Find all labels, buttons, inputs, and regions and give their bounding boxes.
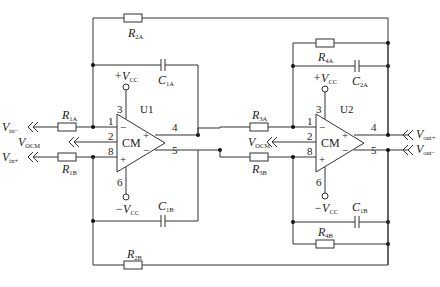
junction-dot	[91, 63, 95, 67]
u1-pin-6: 6	[117, 176, 123, 188]
u2-label: U2	[340, 103, 353, 115]
u2-out-minus-sign: −	[342, 144, 348, 156]
capacitor-c1b-stage2: C1B	[293, 200, 388, 228]
u2-core-label: CM	[321, 136, 340, 150]
r4a-sub: 4A	[325, 57, 333, 64]
u2-in-minus-sign: −	[319, 121, 325, 133]
svg-text:R2B: R2B	[126, 247, 143, 261]
resistor-r4a	[316, 39, 334, 47]
svg-text:R4A: R4A	[317, 50, 334, 64]
svg-text:R3A: R3A	[251, 108, 268, 122]
output-vout-minus: Vout−	[403, 142, 436, 156]
vin-minus-sub: in−	[9, 127, 18, 134]
vout-minus-sub: out−	[423, 149, 435, 156]
vcc-terminal-icon	[123, 84, 129, 90]
resistor-r2a: R2A	[124, 14, 144, 40]
u2-pin-5: 5	[371, 144, 377, 156]
junction-dot	[91, 219, 95, 223]
svg-text:Vin−: Vin−	[2, 120, 18, 134]
svg-text:C1A: C1A	[158, 73, 174, 87]
r3a-sub: 3A	[259, 115, 267, 122]
svg-text:R1B: R1B	[61, 162, 78, 176]
u1-pin-4: 4	[172, 121, 178, 133]
u2-pin-1: 1	[307, 115, 313, 127]
stage-2: R4A C2A C1B R4B	[291, 39, 436, 265]
svg-text:C1B: C1B	[352, 200, 368, 214]
svg-text:Vout+: Vout+	[416, 127, 436, 141]
resistor-r3b	[250, 153, 268, 161]
svg-text:R3B: R3B	[251, 162, 268, 176]
svg-text:+VCC: +VCC	[313, 71, 337, 85]
svg-text:C2A: C2A	[352, 74, 368, 88]
u2-pin-4: 4	[371, 121, 377, 133]
u1-in-minus-sign: −	[120, 121, 126, 133]
r3b-sub: 3B	[259, 169, 267, 176]
junction-dot	[386, 148, 390, 152]
amplifier-u1: +VCC 3 U1 −VCC 6 1 2 8 − + CM + − 4 5	[108, 69, 220, 216]
port-arrow-icon	[69, 137, 74, 147]
u1-out-plus-sign: +	[143, 129, 149, 141]
vcc-terminal-icon	[322, 86, 328, 92]
c2a-sub: 2A	[360, 81, 368, 88]
r2b-sub: 2B	[134, 254, 142, 261]
u2-pin-8: 8	[307, 145, 313, 157]
c1b-sub: 1B	[166, 206, 174, 213]
vee-terminal-icon	[123, 194, 129, 200]
u2-out-plus-sign: +	[342, 129, 348, 141]
output-vout-plus: Vout+	[403, 127, 436, 141]
vin-plus-sub: in+	[9, 157, 18, 164]
resistor-r2b: R2B	[124, 247, 143, 269]
u2-vminus-sub: CC	[329, 208, 338, 215]
u1-label: U1	[140, 103, 153, 115]
capacitor-c2a: C2A	[293, 60, 388, 88]
u1-core-label: CM	[122, 136, 141, 150]
u1-pin-3: 3	[117, 103, 123, 115]
junction-dot	[291, 155, 295, 159]
u1-pin-1: 1	[108, 115, 114, 127]
r1b-sub: 1B	[69, 169, 77, 176]
r4b-sub: 4B	[325, 232, 333, 239]
u1-vminus-sub: CC	[130, 209, 139, 216]
vee-terminal-icon	[322, 193, 328, 199]
svg-text:Vout−: Vout−	[416, 142, 436, 156]
junction-dot	[91, 125, 95, 129]
input-vin-plus: Vin+ R1B	[2, 150, 117, 176]
u1-pin-8: 8	[108, 145, 114, 157]
input-vocm-1: VOCM	[18, 135, 117, 149]
resistor-r1b	[58, 153, 76, 161]
u1-pin-2: 2	[108, 130, 114, 142]
u2-in-plus-sign: +	[319, 153, 325, 165]
u2-vplus-sub: CC	[328, 78, 337, 85]
port-arrow-icon	[408, 130, 413, 140]
svg-text:−VCC: −VCC	[115, 202, 139, 216]
interstage: R3A R3B VOCM	[198, 108, 316, 176]
junction-dot	[291, 125, 295, 129]
c1a-sub: 1A	[166, 80, 174, 87]
svg-text:R1A: R1A	[61, 108, 78, 122]
port-arrow-icon	[28, 122, 33, 132]
wire-left-bus-bottom	[93, 150, 388, 265]
u2-pin-6: 6	[316, 176, 322, 188]
svg-text:+VCC: +VCC	[114, 69, 138, 83]
u1-in-plus-sign: +	[120, 153, 126, 165]
svg-text:R4B: R4B	[317, 225, 334, 239]
svg-text:−VCC: −VCC	[314, 201, 338, 215]
input-vin-minus: Vin− R1A	[2, 108, 117, 134]
capacitor-c1b: C1B	[93, 150, 198, 227]
amplifier-u2: +VCC 3 U2 −VCC 6 1 2 8 − + CM + − 4 5	[307, 71, 408, 215]
junction-dot	[386, 133, 390, 137]
u2-pin-3: 3	[316, 103, 322, 115]
u1-pin-5: 5	[172, 144, 178, 156]
port-arrow-icon	[408, 145, 413, 155]
svg-text:Vin+: Vin+	[2, 150, 18, 164]
r1a-sub: 1A	[69, 115, 77, 122]
resistor-r1a	[58, 123, 76, 131]
svg-text:VOCM: VOCM	[18, 135, 40, 149]
c1b2-sub: 1B	[360, 207, 368, 214]
vout-plus-sub: out+	[423, 134, 435, 141]
u1-out-minus-sign: −	[143, 144, 149, 156]
port-arrow-icon	[28, 152, 33, 162]
r2a-sub: 2A	[135, 33, 143, 40]
vocm1-sub: OCM	[25, 142, 40, 149]
u1-vplus-sub: CC	[129, 76, 138, 83]
